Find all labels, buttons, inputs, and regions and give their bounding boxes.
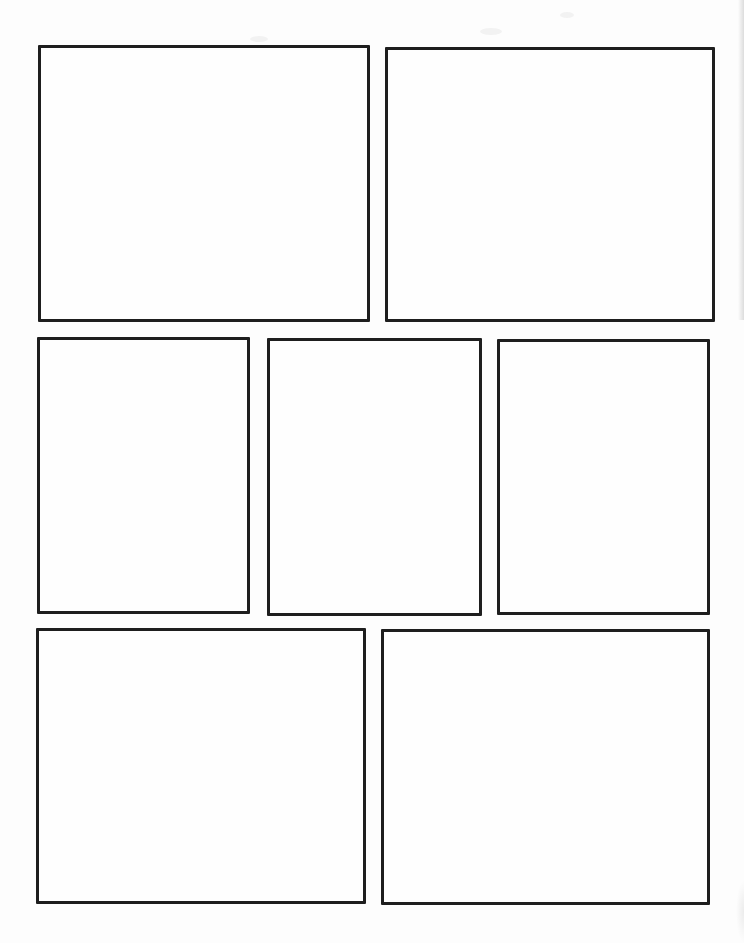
comic-panel-6 — [36, 628, 366, 904]
comic-panel-7 — [381, 629, 710, 905]
comic-page — [0, 0, 744, 943]
scan-speck — [560, 12, 574, 18]
comic-panel-4 — [267, 338, 482, 616]
comic-panel-1 — [38, 45, 370, 322]
page-edge-shadow — [738, 0, 744, 320]
comic-panel-5 — [497, 339, 710, 615]
comic-panel-2 — [385, 47, 715, 322]
scan-speck — [480, 28, 502, 35]
scan-speck — [250, 36, 268, 42]
page-edge-shadow-bottom — [736, 880, 744, 943]
comic-panel-3 — [37, 337, 250, 614]
